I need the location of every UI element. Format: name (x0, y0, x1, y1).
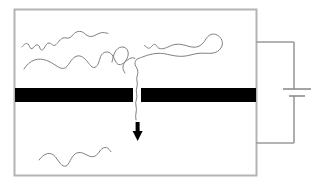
membrane-right-segment (141, 88, 256, 102)
membrane (15, 88, 256, 102)
membrane-left-segment (15, 88, 133, 102)
nanopore-translocation-diagram (0, 0, 313, 185)
figure-root: Electrolyte chamber with membrane dividi… (0, 0, 313, 185)
